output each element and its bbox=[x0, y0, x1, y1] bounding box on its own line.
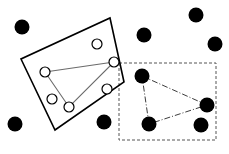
filled-point-outside-bottom-left bbox=[8, 117, 23, 132]
filled-vertex-top bbox=[135, 69, 150, 84]
filled-point-outside-top-right bbox=[189, 8, 204, 23]
open-vertex-bottom bbox=[64, 102, 74, 112]
open-vertex-left bbox=[40, 67, 50, 77]
figure-canvas bbox=[0, 0, 229, 154]
filled-point-inside-dashed-bottom-right bbox=[194, 118, 209, 133]
filled-point-outside-top-mid bbox=[137, 28, 152, 43]
open-point-lower-left bbox=[47, 94, 57, 104]
figure-background bbox=[0, 0, 229, 154]
filled-vertex-bottom bbox=[142, 117, 157, 132]
filled-vertex-right bbox=[200, 98, 215, 113]
open-point-upper-right bbox=[92, 39, 102, 49]
open-point-lower-right bbox=[102, 84, 112, 94]
point-set-matching-diagram bbox=[0, 0, 229, 154]
open-vertex-right bbox=[109, 57, 119, 67]
filled-point-outside-top-left bbox=[15, 20, 30, 35]
filled-point-outside-right bbox=[208, 37, 223, 52]
filled-point-outside-bottom-mid bbox=[97, 115, 112, 130]
